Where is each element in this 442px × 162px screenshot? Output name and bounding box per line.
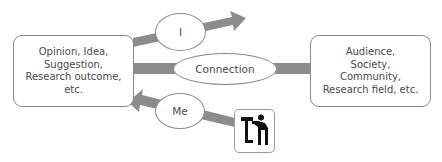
connection-ellipse: Connection: [173, 53, 277, 85]
i-label: I: [179, 26, 182, 38]
audience-box: Audience, Society, Community, Research f…: [310, 35, 431, 107]
connection-label: Connection: [195, 63, 254, 75]
audience-box-text: Audience, Society, Community, Research f…: [323, 46, 419, 96]
telescope-icon-box: [234, 109, 275, 153]
telescope-viewer-icon: [240, 114, 270, 148]
me-ellipse: Me: [155, 93, 205, 129]
i-ellipse: I: [155, 13, 206, 51]
me-label: Me: [172, 105, 188, 117]
source-box-text: Opinion, Idea, Suggestion, Research outc…: [25, 46, 121, 96]
source-box: Opinion, Idea, Suggestion, Research outc…: [13, 35, 134, 107]
